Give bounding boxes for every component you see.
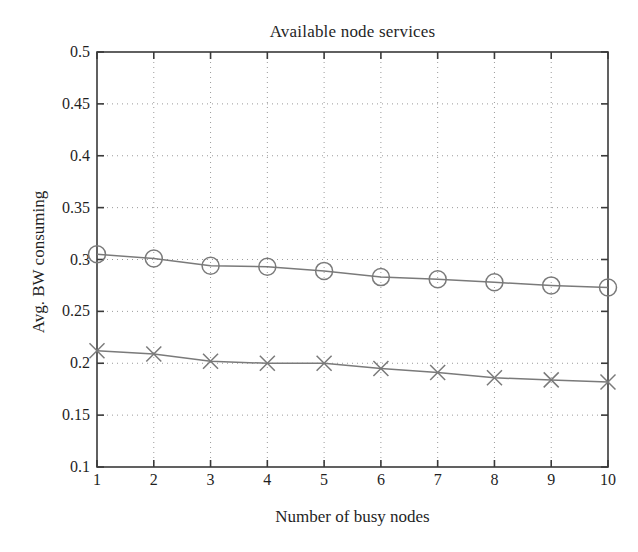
plot-area <box>0 0 638 552</box>
series-line-x <box>97 351 608 382</box>
chart-figure: Available node services Avg. BW consumin… <box>0 0 638 552</box>
